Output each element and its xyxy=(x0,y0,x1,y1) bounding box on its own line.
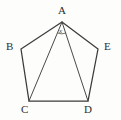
diagonal-a-to-c xyxy=(29,22,62,101)
vertex-label-b: B xyxy=(6,41,13,52)
diagonal-a-to-d xyxy=(62,22,88,101)
vertex-label-a: A xyxy=(58,5,66,16)
pentagon-diagram-svg xyxy=(0,0,121,120)
angle-label-x: x xyxy=(59,28,62,35)
vertex-label-e: E xyxy=(104,41,111,52)
geometry-figure: A B C D E x xyxy=(0,0,121,120)
vertex-label-d: D xyxy=(84,104,92,115)
vertex-label-c: C xyxy=(21,104,28,115)
